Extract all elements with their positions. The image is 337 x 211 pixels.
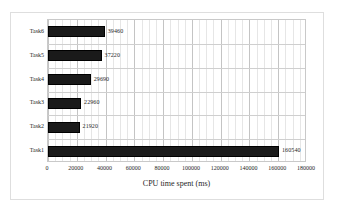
y-axis-label-task3: Task3 [30, 99, 44, 105]
value-label-task4: 29690 [94, 76, 110, 82]
bar-task6 [48, 26, 105, 37]
plot-area [47, 19, 306, 162]
x-tick-60000: 60000 [126, 165, 141, 171]
x-axis-title: CPU time spent (ms) [47, 180, 306, 188]
x-tick-180000: 180000 [297, 165, 315, 171]
value-label-task3: 22960 [84, 99, 100, 105]
bar-row [48, 44, 305, 68]
bar-task1 [48, 146, 279, 157]
x-tick-100000: 100000 [182, 165, 200, 171]
value-label-task1: 160540 [282, 147, 301, 153]
bar-chart-figure: Task6Task5Task4Task3Task2Task1 394603722… [0, 0, 337, 211]
y-axis-label-task1: Task1 [30, 147, 44, 153]
x-tick-0: 0 [46, 165, 49, 171]
value-label-task5: 37220 [105, 52, 121, 58]
bar-task5 [48, 50, 102, 61]
value-label-task2: 21920 [83, 123, 99, 129]
x-tick-120000: 120000 [211, 165, 229, 171]
bar-row [48, 68, 305, 92]
x-axis-tick-labels: 0200004000060000800001000001200001400001… [47, 165, 306, 175]
y-axis-label-task6: Task6 [30, 28, 44, 34]
bar-task4 [48, 74, 91, 85]
bar-series [48, 20, 305, 161]
x-tick-140000: 140000 [239, 165, 257, 171]
x-tick-80000: 80000 [155, 165, 170, 171]
x-tick-20000: 20000 [68, 165, 83, 171]
y-axis-label-task4: Task4 [30, 76, 44, 82]
bar-task3 [48, 98, 81, 109]
bar-row [48, 139, 305, 162]
y-axis-category-labels: Task6Task5Task4Task3Task2Task1 [8, 19, 44, 162]
bar-row [48, 20, 305, 44]
x-tick-40000: 40000 [97, 165, 112, 171]
y-axis-label-task2: Task2 [30, 123, 44, 129]
value-label-task6: 39460 [108, 28, 124, 34]
y-axis-label-task5: Task5 [30, 52, 44, 58]
x-tick-160000: 160000 [268, 165, 286, 171]
bar-task2 [48, 122, 80, 133]
